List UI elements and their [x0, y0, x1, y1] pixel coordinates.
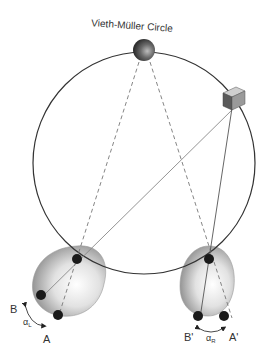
right-nodal-point — [204, 254, 214, 264]
label-left-b: B — [10, 303, 17, 315]
vieth-muller-circle — [33, 52, 255, 274]
left-retina-point-a — [53, 310, 63, 320]
fixation-sphere — [133, 39, 155, 61]
left-nodal-point — [72, 254, 82, 264]
label-right-alpha: αR — [206, 333, 216, 344]
peripheral-cube — [223, 87, 245, 110]
right-angle-arc — [198, 328, 224, 332]
vieth-muller-diagram: Vieth-Müller Circle B A αL B' A' αR — [0, 0, 266, 358]
label-left-a: A — [43, 333, 51, 345]
label-right-a: A' — [229, 331, 238, 343]
left-eye — [32, 246, 105, 316]
right-retina-point-b — [193, 311, 203, 321]
left-retina-point-b — [36, 290, 46, 300]
diagram-title: Vieth-Müller Circle — [91, 17, 174, 34]
right-retina-point-a — [219, 311, 229, 321]
label-right-b: B' — [184, 331, 193, 343]
